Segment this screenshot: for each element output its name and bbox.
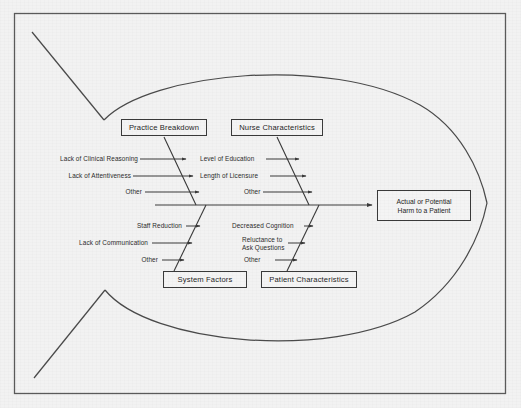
rib-practice-breakdown: [164, 137, 196, 205]
category-label-nurse-characteristics: Nurse Characteristics: [239, 123, 315, 132]
effect-box[interactable]: Actual or Potential Harm to a Patient: [377, 190, 471, 221]
fishbone-diagram: Practice Breakdown Nurse Characteristics…: [0, 0, 521, 408]
cause-label-staff-reduction: Staff Reduction: [104, 222, 182, 230]
effect-label-line-1: Actual or Potential: [396, 197, 451, 206]
rib-nurse-characteristics: [277, 137, 309, 205]
cause-label-reluctance-to: Reluctance to: [242, 236, 290, 244]
effect-label-line-2: Harm to a Patient: [398, 206, 451, 215]
cause-label-lack-of-attentiveness: Lack of Attentiveness: [44, 172, 131, 180]
cause-label-patient-characteristics-other: Other: [244, 256, 274, 264]
cause-label-level-of-education: Level of Education: [200, 155, 266, 163]
category-box-system-factors[interactable]: System Factors: [163, 271, 247, 288]
cause-label-lack-of-communication: Lack of Communication: [62, 239, 148, 247]
cause-label-system-factors-other: Other: [112, 256, 158, 264]
cause-label-ask-questions: Ask Questions: [242, 244, 290, 252]
rib-system-factors: [174, 205, 206, 271]
category-box-nurse-characteristics[interactable]: Nurse Characteristics: [231, 119, 323, 136]
rib-patient-characteristics: [287, 205, 319, 271]
category-label-system-factors: System Factors: [178, 275, 233, 284]
fish-body-upper-curve: [104, 75, 487, 203]
cause-label-lack-of-clinical-reasoning: Lack of Clinical Reasoning: [44, 155, 138, 163]
category-label-practice-breakdown: Practice Breakdown: [129, 123, 199, 132]
fish-tail-upper-fin: [32, 32, 104, 120]
category-box-practice-breakdown[interactable]: Practice Breakdown: [121, 119, 207, 136]
cause-label-length-of-licensure: Length of Licensure: [200, 172, 268, 180]
cause-label-nurse-characteristics-other: Other: [244, 188, 274, 196]
fish-tail-lower-fin: [34, 290, 105, 378]
category-label-patient-characteristics: Patient Characteristics: [269, 275, 348, 284]
cause-label-decreased-cognition: Decreased Cognition: [232, 222, 306, 230]
cause-label-practice-breakdown-other: Other: [94, 188, 142, 196]
category-box-patient-characteristics[interactable]: Patient Characteristics: [261, 271, 357, 288]
